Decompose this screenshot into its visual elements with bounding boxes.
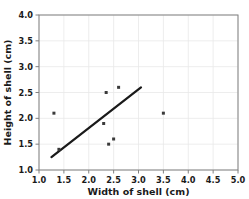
data-point xyxy=(162,112,165,115)
x-tick-label: 2.5 xyxy=(106,175,121,185)
data-point xyxy=(57,148,60,151)
data-point xyxy=(112,138,115,141)
x-axis-tick-labels: 1.01.52.02.53.03.54.04.55.0 xyxy=(32,175,246,185)
scatter-plot-figure: 1.01.52.02.53.03.54.04.55.0 1.01.52.02.5… xyxy=(0,0,249,199)
y-tick-label: 3.5 xyxy=(18,36,33,46)
x-tick-label: 1.5 xyxy=(57,175,72,185)
y-tick-label: 1.5 xyxy=(18,139,33,149)
y-tick-label: 2.5 xyxy=(18,88,33,98)
data-point xyxy=(52,112,55,115)
y-tick-label: 3.0 xyxy=(18,62,33,72)
x-tick-label: 3.5 xyxy=(156,175,171,185)
x-tick-label: 5.0 xyxy=(231,175,246,185)
x-axis-label: Width of shell (cm) xyxy=(87,186,189,197)
x-tick-label: 4.0 xyxy=(181,175,196,185)
data-point xyxy=(117,86,120,89)
y-tick-label: 2.0 xyxy=(18,113,33,123)
x-tick-label: 2.0 xyxy=(81,175,96,185)
x-tick-label: 4.5 xyxy=(206,175,221,185)
plot-canvas: 1.01.52.02.53.03.54.04.55.0 1.01.52.02.5… xyxy=(0,0,249,199)
x-tick-label: 3.0 xyxy=(131,175,146,185)
data-point xyxy=(102,122,105,125)
y-tick-label: 1.0 xyxy=(18,165,33,175)
y-tick-label: 4.0 xyxy=(18,10,33,20)
x-tick-label: 1.0 xyxy=(32,175,47,185)
y-axis-label: Height of shell (cm) xyxy=(2,40,13,146)
data-point xyxy=(105,91,108,94)
data-point xyxy=(107,143,110,146)
